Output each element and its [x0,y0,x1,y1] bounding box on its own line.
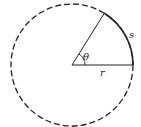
circle-diagram: θ s r [0,0,141,127]
radius-label: r [100,67,106,78]
arc-length-label: s [129,29,134,40]
theta-label: θ [83,51,89,62]
